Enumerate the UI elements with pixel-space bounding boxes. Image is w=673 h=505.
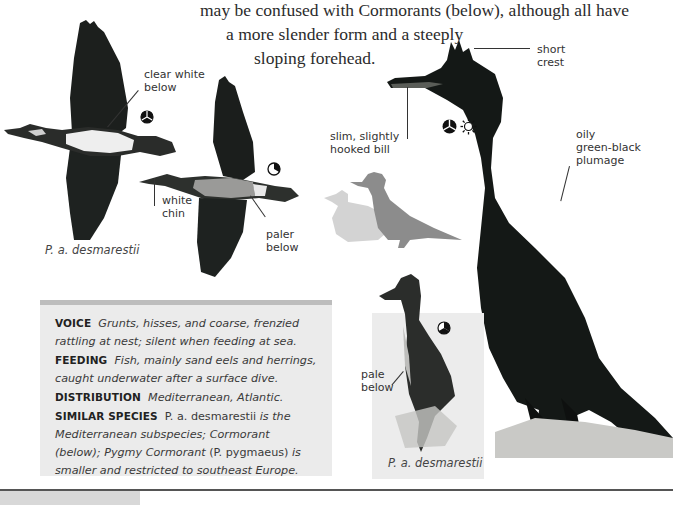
- intro-line-0: may be confused with Cormorants (below),…: [200, 0, 629, 22]
- leader-line-white-chin: [154, 178, 155, 206]
- label-pale-below: pale below: [361, 368, 394, 394]
- caption-juvenile: P. a. desmarestii: [388, 456, 482, 470]
- distribution-text: Mediterranean, Atlantic.: [148, 391, 283, 404]
- size-comparison-silhouettes: [318, 170, 468, 250]
- page-bottom-tab: [0, 491, 140, 505]
- voice-label: VOICE: [55, 317, 91, 329]
- season-pie-icon: [437, 321, 451, 335]
- season-pie-icon: [442, 119, 457, 134]
- similar-line-1: SIMILAR SPECIES P. a. desmarestii is the: [55, 407, 316, 426]
- similar-line-3: (below); Pygmy Cormorant (P. pygmaeus) i…: [55, 444, 316, 462]
- feeding-line-1: FEEDING Fish, mainly sand eels and herri…: [55, 351, 316, 370]
- intro-line-2: sloping forehead.: [254, 46, 376, 70]
- distribution-label: DISTRIBUTION: [55, 391, 141, 403]
- feeding-line-2: caught underwater after a surface dive.: [55, 370, 316, 388]
- similar-line-4: smaller and restricted to southeast Euro…: [55, 462, 316, 480]
- similar-species-1: P. a. desmarestii: [165, 410, 256, 423]
- leader-line-bill: [407, 87, 408, 139]
- voice-text: Grunts, hisses, and coarse, frenzied: [98, 317, 299, 330]
- similar-species-2: (P. pygmaeus): [209, 446, 288, 459]
- info-text: VOICE Grunts, hisses, and coarse, frenzi…: [55, 314, 316, 480]
- label-slim-bill: slim, slightly hooked bill: [330, 130, 399, 156]
- voice-line-2: rattling at nest; silent when feeding at…: [55, 333, 316, 351]
- label-paler-below: paler below: [266, 228, 299, 254]
- feeding-label: FEEDING: [55, 354, 107, 366]
- similar-label: SIMILAR SPECIES: [55, 410, 158, 422]
- label-white-chin: white chin: [162, 194, 192, 220]
- flying-shag-illustration-2: [135, 72, 310, 287]
- season-pie-icon: [267, 162, 281, 176]
- species-info-box: VOICE Grunts, hisses, and coarse, frenzi…: [40, 300, 332, 476]
- voice-line-1: VOICE Grunts, hisses, and coarse, frenzi…: [55, 314, 316, 333]
- sun-icon: [460, 118, 477, 135]
- label-short-crest: short crest: [537, 43, 565, 69]
- juvenile-shag-illustration: [375, 266, 485, 456]
- caption-flight: P. a. desmarestii: [45, 243, 139, 257]
- info-box-top-bar: [40, 300, 332, 305]
- similar-line-2: Mediterranean subspecies; Cormorant: [55, 426, 316, 444]
- label-oily-plumage: oily green-black plumage: [576, 128, 641, 167]
- leader-line-short-crest: [474, 48, 530, 49]
- distribution-line: DISTRIBUTION Mediterranean, Atlantic.: [55, 388, 316, 407]
